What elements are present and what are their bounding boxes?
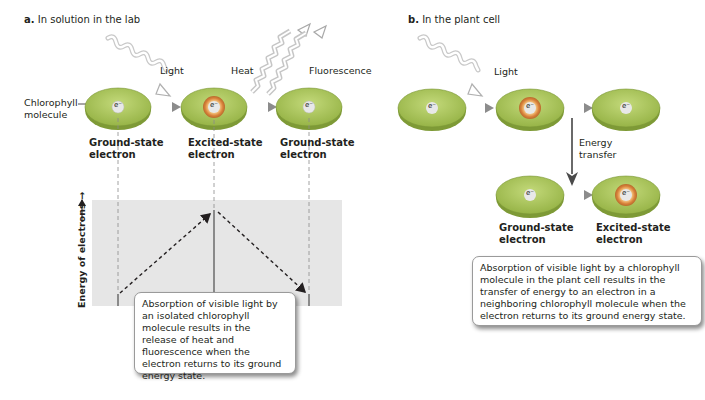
- light-wave-icon: [420, 37, 482, 96]
- energy-transfer-label: Energy transfer: [579, 137, 617, 161]
- electron-label: e⁻: [210, 101, 218, 109]
- molecule-ground-1: [85, 88, 151, 130]
- energy-chart-area: [92, 200, 342, 306]
- transition-arrow-icon: [568, 103, 593, 113]
- state-label-ground: Ground-state electron: [499, 222, 574, 246]
- panel-b-diagram: [380, 0, 705, 260]
- light-label: Light: [494, 66, 518, 77]
- state-label-excited: Excited-state electron: [188, 137, 263, 161]
- molecule-excited-bottom: [592, 176, 660, 218]
- transition-arrow-icon: [155, 102, 181, 112]
- transition-arrow-icon: [251, 102, 277, 112]
- light-label: Light: [160, 65, 184, 76]
- electron-label: e⁻: [114, 101, 122, 109]
- molecule-ground-bottom: [496, 176, 564, 218]
- electron-label: e⁻: [622, 189, 630, 197]
- fluorescence-wave-icon: [268, 26, 326, 94]
- molecule-excited-top: [496, 89, 564, 131]
- state-label-ground: Ground-state electron: [89, 137, 164, 161]
- energy-transfer-arrow: [566, 118, 578, 186]
- chlorophyll-label: Chlorophyll molecule: [24, 97, 78, 121]
- molecule-ground-top-1: [398, 89, 466, 131]
- transition-arrow-icon: [470, 103, 494, 113]
- fluorescence-label: Fluorescence: [309, 65, 372, 76]
- electron-label: e⁻: [622, 102, 630, 110]
- state-label-excited: Excited-state electron: [596, 222, 671, 246]
- electron-label: e⁻: [526, 102, 534, 110]
- electron-label: e⁻: [305, 101, 313, 109]
- molecule-ground-2: [276, 88, 342, 130]
- caption-panel-b: Absorption of visible light by a chlorop…: [472, 256, 702, 326]
- electron-label: e⁻: [526, 189, 534, 197]
- energy-axis-label: Energy of electrons →: [76, 192, 87, 308]
- caption-panel-a: Absorption of visible light by an isolat…: [134, 292, 296, 374]
- molecule-ground-top-2: [592, 89, 660, 131]
- heat-label: Heat: [231, 65, 254, 76]
- transition-arrow-icon: [568, 190, 593, 200]
- electron-label: e⁻: [428, 102, 436, 110]
- state-label-ground: Ground-state electron: [280, 137, 355, 161]
